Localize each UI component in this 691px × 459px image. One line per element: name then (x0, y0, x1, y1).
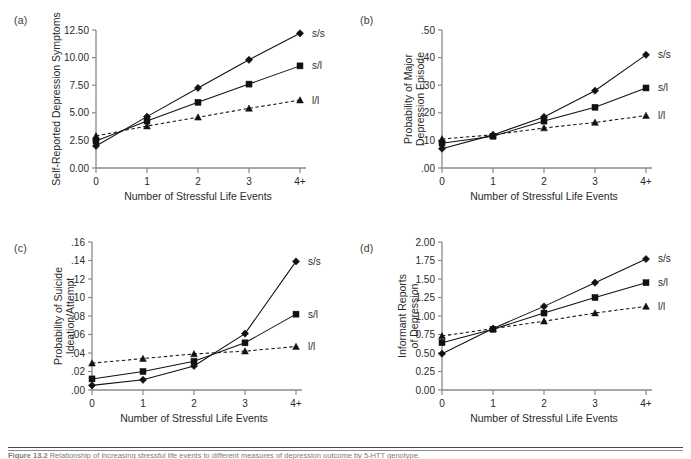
figure-caption-text: Relationship of increasing stressful lif… (50, 452, 420, 459)
chart-panel-a: (a) Self-Reported Depression Symptoms 0.… (0, 0, 345, 215)
svg-text:10.00: 10.00 (64, 52, 89, 63)
svg-text:0.00: 0.00 (70, 163, 90, 174)
svg-text:2.50: 2.50 (70, 135, 90, 146)
svg-text:s/l: s/l (308, 309, 318, 320)
svg-text:0: 0 (439, 398, 445, 409)
svg-text:s/l: s/l (658, 277, 668, 288)
figure-container: (a) Self-Reported Depression Symptoms 0.… (0, 0, 691, 459)
svg-text:s/s: s/s (308, 256, 321, 267)
svg-text:1.25: 1.25 (416, 292, 436, 303)
svg-text:0.75: 0.75 (416, 329, 436, 340)
chart-panel-d: (d) Informant Reports of Depression 0.00… (346, 228, 691, 443)
svg-text:3: 3 (592, 176, 598, 187)
svg-text:12.50: 12.50 (64, 25, 89, 36)
svg-text:.00: .00 (421, 163, 435, 174)
caption-divider-thick (8, 447, 683, 448)
caption-divider-thin (8, 450, 683, 451)
svg-text:l/l: l/l (658, 110, 665, 121)
x-axis-label-b: Number of Stressful Life Events (442, 190, 646, 202)
svg-text:1: 1 (490, 176, 496, 187)
svg-text:0.50: 0.50 (416, 348, 436, 359)
svg-text:.04: .04 (71, 348, 85, 359)
svg-text:.10: .10 (71, 292, 85, 303)
svg-text:0.00: 0.00 (416, 385, 436, 396)
svg-text:.12: .12 (71, 274, 85, 285)
svg-text:.08: .08 (71, 311, 85, 322)
svg-text:0: 0 (93, 176, 99, 187)
svg-text:.20: .20 (421, 107, 435, 118)
svg-text:l/l: l/l (308, 341, 315, 352)
svg-text:5.00: 5.00 (70, 107, 90, 118)
svg-text:.30: .30 (421, 80, 435, 91)
svg-text:1: 1 (144, 176, 150, 187)
svg-text:0: 0 (439, 176, 445, 187)
svg-text:l/l: l/l (658, 301, 665, 312)
x-axis-label-d: Number of Stressful Life Events (442, 412, 646, 424)
svg-text:.10: .10 (421, 135, 435, 146)
x-axis-label-a: Number of Stressful Life Events (96, 190, 300, 202)
figure-caption-label: Figure 13.2 (8, 452, 48, 459)
svg-text:4+: 4+ (290, 398, 302, 409)
svg-text:2: 2 (541, 176, 547, 187)
plot-area-c: .00.02.04.06.08.10.12.14.1601234+s/ss/ll… (0, 228, 345, 443)
x-axis-label-c: Number of Stressful Life Events (92, 412, 296, 424)
svg-text:s/s: s/s (312, 28, 325, 39)
svg-text:1.00: 1.00 (416, 311, 436, 322)
svg-text:1.50: 1.50 (416, 274, 436, 285)
svg-text:.16: .16 (71, 237, 85, 248)
svg-text:.40: .40 (421, 52, 435, 63)
svg-text:0.25: 0.25 (416, 366, 436, 377)
svg-text:.14: .14 (71, 255, 85, 266)
plot-area-a: 0.002.505.007.5010.0012.5001234+s/ss/ll/… (0, 0, 345, 215)
chart-panel-c: (c) Probability of Suicide Ideation/Atte… (0, 228, 345, 443)
svg-text:2: 2 (541, 398, 547, 409)
svg-text:.06: .06 (71, 329, 85, 340)
svg-text:s/l: s/l (658, 82, 668, 93)
svg-text:3: 3 (592, 398, 598, 409)
figure-caption: Figure 13.2 Relationship of increasing s… (8, 452, 683, 459)
svg-text:.50: .50 (421, 25, 435, 36)
plot-area-b: .00.10.20.30.40.5001234+s/ss/ll/l (346, 0, 691, 215)
svg-text:0: 0 (89, 398, 95, 409)
svg-text:s/s: s/s (658, 49, 671, 60)
svg-text:4+: 4+ (640, 398, 652, 409)
chart-panel-b: (b) Probability of Major Depression Epis… (346, 0, 691, 215)
svg-text:.02: .02 (71, 366, 85, 377)
svg-text:.00: .00 (71, 385, 85, 396)
svg-text:3: 3 (246, 176, 252, 187)
svg-text:s/s: s/s (658, 253, 671, 264)
svg-text:2: 2 (195, 176, 201, 187)
svg-text:2: 2 (191, 398, 197, 409)
svg-text:3: 3 (242, 398, 248, 409)
svg-text:4+: 4+ (294, 176, 306, 187)
svg-text:1: 1 (490, 398, 496, 409)
svg-text:7.50: 7.50 (70, 80, 90, 91)
svg-text:2.00: 2.00 (416, 237, 436, 248)
svg-text:l/l: l/l (312, 95, 319, 106)
svg-text:4+: 4+ (640, 176, 652, 187)
svg-text:s/l: s/l (312, 60, 322, 71)
plot-area-d: 0.000.250.500.751.001.251.501.752.000123… (346, 228, 691, 443)
svg-text:1: 1 (140, 398, 146, 409)
svg-text:1.75: 1.75 (416, 255, 436, 266)
